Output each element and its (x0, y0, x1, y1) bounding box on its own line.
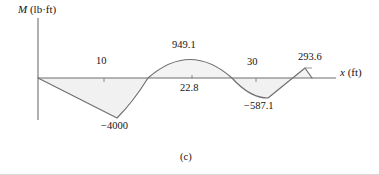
x-tick-label-10: 10 (96, 56, 107, 67)
bending-moment-figure: M (lb·ft) x (ft) 10 949.1 22.8 30 293.6 … (0, 0, 379, 175)
value-label-peak-949-1: 949.1 (172, 40, 196, 51)
diagram-fill-negative-left (38, 78, 148, 118)
value-label-peak-293-6: 293.6 (298, 52, 322, 63)
x-tick-label-22-8: 22.8 (180, 83, 198, 94)
x-axis-title: x (ft) (340, 67, 362, 78)
x-tick-label-30: 30 (247, 57, 258, 68)
value-label-min-4000: −4000 (101, 121, 128, 132)
y-axis-symbol: M (18, 3, 27, 15)
y-axis-units-text: (lb·ft) (30, 3, 56, 15)
y-axis-title: M (lb·ft) (18, 4, 56, 15)
figure-caption: (c) (180, 152, 192, 163)
value-label-min-587-1: −587.1 (244, 101, 274, 112)
bottom-divider (0, 174, 379, 175)
x-axis-units-text: (ft) (348, 66, 362, 78)
